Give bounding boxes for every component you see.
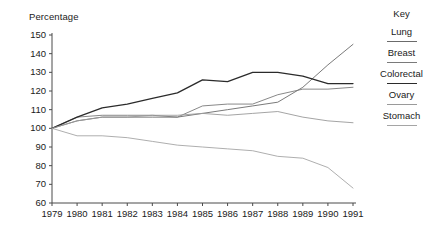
chart-page: Percentage 15014013012011010090807060 19… bbox=[0, 0, 441, 235]
legend-item-label: Ovary bbox=[362, 89, 441, 100]
legend-items: LungBreastColorectalOvaryStomach bbox=[362, 26, 441, 126]
y-tick-label: 70 bbox=[22, 178, 46, 189]
legend-item[interactable]: Colorectal bbox=[362, 68, 441, 84]
y-tick-label: 100 bbox=[22, 122, 46, 133]
legend-item-label: Colorectal bbox=[362, 68, 441, 79]
legend-item-label: Breast bbox=[362, 47, 441, 58]
y-tick-label: 90 bbox=[22, 141, 46, 152]
y-tick-label: 110 bbox=[22, 104, 46, 115]
x-tick-label: 1991 bbox=[338, 208, 368, 219]
legend-item[interactable]: Stomach bbox=[362, 110, 441, 126]
legend-line-swatch bbox=[387, 83, 417, 84]
y-tick-label: 140 bbox=[22, 48, 46, 59]
legend-line-swatch bbox=[387, 41, 417, 42]
legend-item-label: Stomach bbox=[362, 110, 441, 121]
y-tick-label: 80 bbox=[22, 160, 46, 171]
legend-title: Key bbox=[362, 8, 441, 19]
y-tick-label: 150 bbox=[22, 29, 46, 40]
legend-item[interactable]: Lung bbox=[362, 26, 441, 42]
y-tick-label: 130 bbox=[22, 66, 46, 77]
legend-item[interactable]: Ovary bbox=[362, 89, 441, 105]
legend-line-swatch bbox=[387, 62, 417, 63]
legend-item-label: Lung bbox=[362, 26, 441, 37]
y-tick-label: 120 bbox=[22, 85, 46, 96]
chart-legend: Key LungBreastColorectalOvaryStomach bbox=[362, 8, 441, 131]
legend-line-swatch bbox=[387, 104, 417, 105]
legend-item[interactable]: Breast bbox=[362, 47, 441, 63]
y-tick-label: 60 bbox=[22, 197, 46, 208]
legend-line-swatch bbox=[387, 125, 417, 126]
